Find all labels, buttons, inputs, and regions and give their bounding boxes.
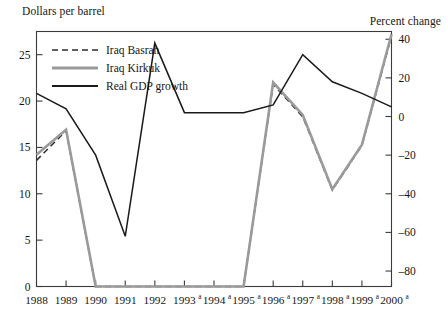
x-tick-label: 1990 <box>84 294 107 306</box>
right-tick-label: 40 <box>399 33 411 45</box>
right-axis-title: Percent change <box>370 15 441 27</box>
x-tick-label: 1998 <box>321 294 344 306</box>
series-line-real-gdp-growth <box>37 43 392 236</box>
x-tick-label: 1992 <box>144 294 167 306</box>
x-tick-label: 1997 <box>291 294 314 306</box>
right-tick-label: –20 <box>398 149 417 161</box>
legend-label-real-gdp-growth: Real GDP growth <box>106 80 188 93</box>
left-tick-label: 20 <box>19 95 31 107</box>
x-tick-label: 1988 <box>25 294 48 306</box>
left-tick-label: 10 <box>19 188 31 200</box>
x-tick-footnote-marker: a <box>405 293 409 301</box>
line-chart: 0510152025 –80–60–40–2002040 19881989199… <box>0 0 447 321</box>
x-tick-footnote-marker: a <box>198 293 202 301</box>
x-tick-label: 2000 <box>380 294 403 306</box>
right-tick-label: –60 <box>398 226 417 238</box>
x-axis-ticks: 198819891990199119921993a1994a1995a1996a… <box>25 281 409 306</box>
x-tick-label: 1995 <box>232 294 255 306</box>
legend-label-iraq-kirkuk: Iraq Kirkuk <box>106 62 160 75</box>
left-tick-label: 5 <box>25 234 31 246</box>
x-tick-label: 1996 <box>262 294 285 306</box>
left-tick-label: 0 <box>25 281 31 293</box>
left-tick-label: 15 <box>19 141 31 153</box>
series-line-iraq-kirkuk <box>37 34 392 286</box>
x-tick-label: 1993 <box>173 294 196 306</box>
legend-label-iraq-basrah: Iraq Basrah <box>106 44 160 57</box>
right-axis-ticks: –80–60–40–2002040 <box>386 33 417 277</box>
x-tick-footnote-marker: a <box>376 293 380 301</box>
series-group <box>37 34 392 286</box>
right-tick-label: –40 <box>398 188 417 200</box>
x-tick-label: 1994 <box>203 294 226 306</box>
right-tick-label: 0 <box>399 111 405 123</box>
chart-legend: Iraq BasrahIraq KirkukReal GDP growth <box>52 44 188 93</box>
right-tick-label: 20 <box>399 72 411 84</box>
left-tick-label: 25 <box>19 49 31 61</box>
chart-container: Dollars per barrel Percent change 051015… <box>0 0 447 321</box>
x-tick-footnote-marker: a <box>287 293 291 301</box>
x-tick-label: 1991 <box>114 294 137 306</box>
x-tick-label: 1999 <box>351 294 374 306</box>
x-tick-label: 1989 <box>55 294 78 306</box>
left-axis-title: Dollars per barrel <box>22 5 105 17</box>
right-tick-label: –80 <box>398 265 417 277</box>
left-axis-ticks: 0510152025 <box>19 49 43 293</box>
